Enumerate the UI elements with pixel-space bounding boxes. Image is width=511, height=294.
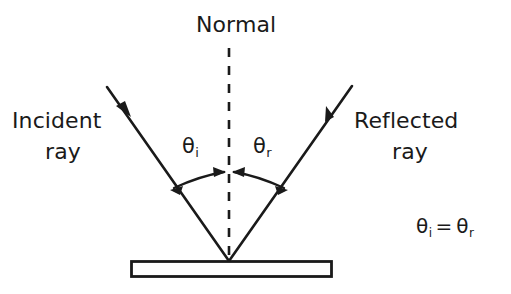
reflection-equation: θi=θr [416, 216, 474, 236]
normal-label: Normal [196, 14, 276, 36]
equation-right-symbol: θ [456, 214, 468, 238]
theta-i-subscript: i [195, 145, 199, 160]
reflected-ray-label-line2: ray [392, 141, 428, 163]
reflection-diagram: Normal Incident ray Reflected ray θi θr … [0, 0, 511, 294]
reflected-ray-label-line1: Reflected [354, 110, 458, 132]
angle-arc-incident-arrowhead-normal [213, 167, 226, 177]
mirror-surface [132, 262, 332, 277]
equation-left-symbol: θ [416, 214, 428, 238]
incident-ray-label-line2: ray [45, 141, 81, 163]
theta-r-label: θr [253, 136, 271, 157]
theta-i-label: θi [182, 136, 198, 157]
equation-right-subscript: r [469, 226, 474, 240]
equation-left-subscript: i [429, 226, 432, 240]
theta-r-subscript: r [266, 145, 271, 160]
theta-r-symbol: θ [253, 134, 266, 158]
reflected-ray-line [229, 86, 352, 261]
theta-i-symbol: θ [182, 134, 195, 158]
angle-arc-reflected-arrowhead-normal [232, 167, 245, 177]
incident-ray-label-line1: Incident [12, 110, 102, 132]
equation-equals-sign: = [432, 214, 457, 238]
